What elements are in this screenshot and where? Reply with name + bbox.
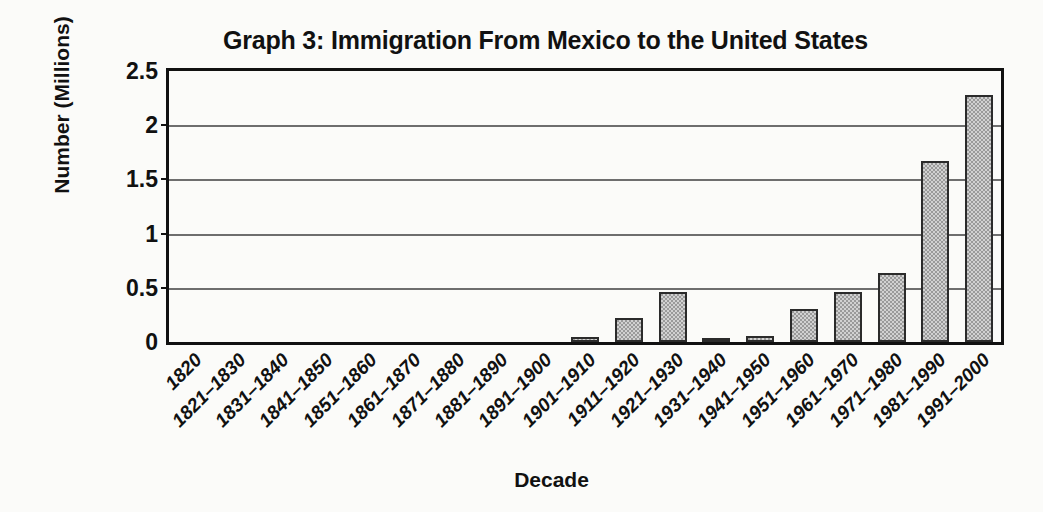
bar xyxy=(921,161,949,342)
bar xyxy=(790,309,818,342)
bar-slot xyxy=(563,71,607,342)
bar xyxy=(615,318,643,342)
bar-slot xyxy=(870,71,914,342)
x-axis-title: Decade xyxy=(0,468,1043,492)
bar xyxy=(659,292,687,342)
bar-slot xyxy=(257,71,301,342)
bar-slot xyxy=(169,71,213,342)
bar-slot xyxy=(782,71,826,342)
bar xyxy=(878,273,906,342)
bar-slot xyxy=(651,71,695,342)
y-tick-label: 1.5 xyxy=(126,166,158,193)
bar-slot xyxy=(695,71,739,342)
bar xyxy=(834,292,862,342)
bar xyxy=(702,338,730,342)
bar-slot xyxy=(432,71,476,342)
bar-slot xyxy=(300,71,344,342)
bar xyxy=(746,336,774,343)
y-tick-label: 0 xyxy=(145,329,158,356)
bar-slot xyxy=(826,71,870,342)
y-tick-label: 1 xyxy=(145,220,158,247)
y-axis-title: Number (Millions) xyxy=(50,0,74,245)
x-axis-tick-labels: 18201821–18301831–18401841–18501851–1860… xyxy=(169,345,1001,465)
y-tick-label: 0.5 xyxy=(126,274,158,301)
bar-slot xyxy=(344,71,388,342)
bar xyxy=(965,95,993,342)
bar-slot xyxy=(388,71,432,342)
bar-slot xyxy=(957,71,1001,342)
chart-figure: Graph 3: Immigration From Mexico to the … xyxy=(0,0,1043,512)
bar-slot xyxy=(607,71,651,342)
bar-slot xyxy=(476,71,520,342)
bar-slot xyxy=(213,71,257,342)
chart-title: Graph 3: Immigration From Mexico to the … xyxy=(0,26,1043,55)
bar-slot xyxy=(914,71,958,342)
y-axis-tick-labels: 00.511.522.5 xyxy=(86,68,158,345)
bar-series xyxy=(169,71,1001,342)
bar-slot xyxy=(738,71,782,342)
bar-slot xyxy=(519,71,563,342)
y-tick-label: 2.5 xyxy=(126,58,158,85)
bar xyxy=(571,337,599,342)
x-tick-slot: 1991–2000 xyxy=(957,345,1001,465)
y-tick-label: 2 xyxy=(145,112,158,139)
